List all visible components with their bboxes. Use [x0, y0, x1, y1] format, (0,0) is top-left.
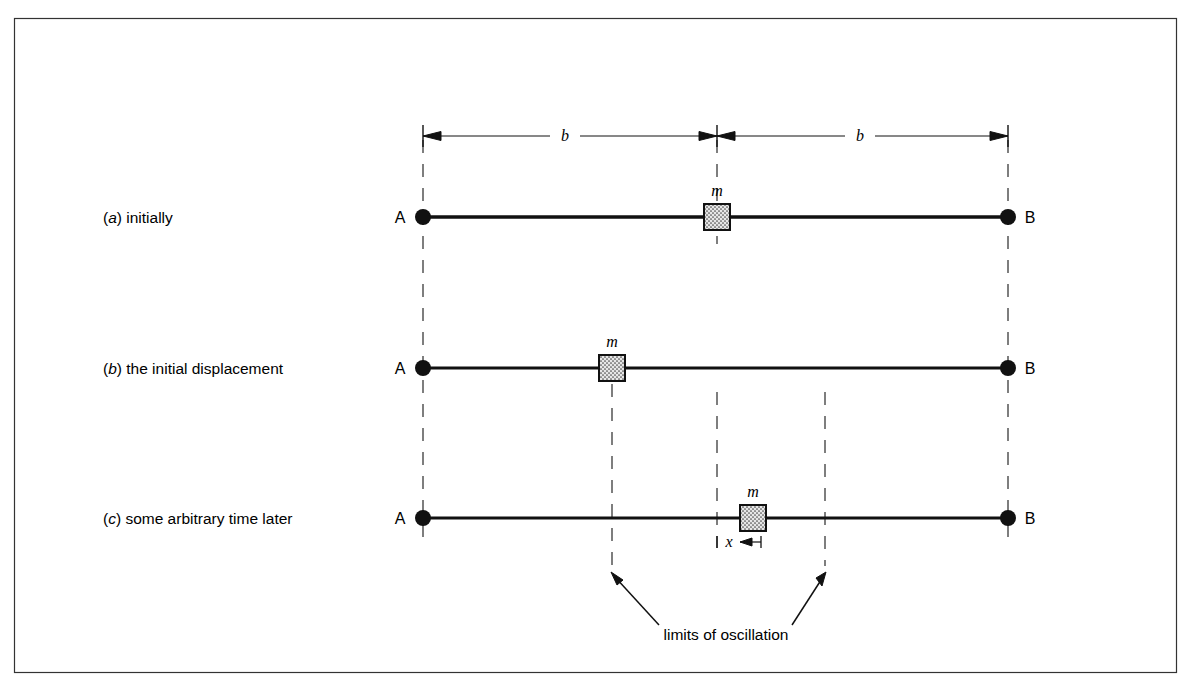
row-b-endpoint-B: [1000, 360, 1016, 376]
dimension-line-group: [423, 125, 1008, 147]
row-c-mass-label: m: [747, 483, 759, 500]
limits-leaders: [611, 572, 826, 625]
row-a-mass-label: m: [711, 182, 723, 199]
dimension-arrow-left-end: [699, 132, 717, 141]
dimension-label-b-right: b: [856, 127, 864, 144]
physics-diagram: b b (a) initially A B m (b) the initial …: [0, 0, 1193, 693]
row-c-endpoint-A: [415, 510, 431, 526]
dimension-label-b-left: b: [561, 127, 569, 144]
row-c-label: some arbitrary time later: [125, 510, 292, 527]
figure-frame: [15, 19, 1177, 673]
row-a-endpoint-B: [1000, 209, 1016, 225]
figure-container: b b (a) initially A B m (b) the initial …: [0, 0, 1193, 693]
dimension-arrow-right-start: [717, 132, 735, 141]
limits-of-oscillation-caption: limits of oscillation: [664, 626, 789, 643]
displacement-label-x: x: [724, 533, 732, 550]
row-b-label: the initial displacement: [126, 360, 284, 377]
row-a-mass-block: [704, 204, 730, 230]
row-b-label-A: A: [395, 360, 406, 377]
row-a-endpoint-A: [415, 209, 431, 225]
row-a-caption: (a) initially: [103, 209, 173, 226]
dimension-arrow-right-end: [990, 132, 1008, 141]
row-c: (c) some arbitrary time later A B m: [103, 483, 1035, 531]
row-b-mass-block: [599, 355, 625, 381]
row-c-caption: (c) some arbitrary time later: [103, 510, 293, 527]
row-c-mass-block: [740, 505, 766, 531]
row-a-label-A: A: [395, 209, 406, 226]
row-a: (a) initially A B m: [103, 182, 1035, 230]
displacement-dimension-group: [717, 536, 761, 548]
row-b-label-B: B: [1025, 360, 1036, 377]
row-a-label: initially: [126, 209, 173, 226]
limits-leader-left-line: [615, 577, 659, 625]
row-b-endpoint-A: [415, 360, 431, 376]
limits-leader-right-arrow: [816, 572, 826, 586]
row-b: (b) the initial displacement A B m: [103, 333, 1035, 381]
row-c-label-B: B: [1025, 510, 1036, 527]
dimension-arrow-left-start: [423, 132, 441, 141]
row-b-caption: (b) the initial displacement: [103, 360, 284, 377]
row-a-label-B: B: [1025, 209, 1036, 226]
row-c-endpoint-B: [1000, 510, 1016, 526]
displacement-arrow: [740, 538, 752, 546]
row-b-mass-label: m: [606, 333, 618, 350]
limits-leader-right-line: [792, 577, 823, 625]
row-c-label-A: A: [395, 510, 406, 527]
